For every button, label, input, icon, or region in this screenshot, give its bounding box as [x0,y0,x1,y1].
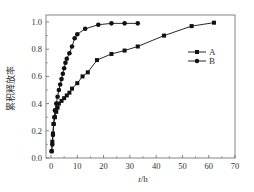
marker-circle [109,21,114,26]
x-tick-label: 20 [99,161,108,171]
marker-circle [135,21,140,26]
marker-circle [70,44,75,49]
marker-square [123,49,127,53]
x-tick-label: 70 [231,161,240,171]
series-line-B [52,23,138,151]
x-axis-ticks: 010203040506070 [49,155,239,171]
y-tick-label: 1.0 [31,17,42,27]
marker-circle [72,36,77,41]
marker-circle [75,32,80,37]
marker-circle [59,77,64,82]
y-tick-label: 0.4 [31,99,42,109]
marker-circle [51,122,56,127]
marker-square [212,21,216,25]
x-axis-label: t/h [138,174,148,184]
x-tick-label: 50 [178,161,187,171]
marker-square [86,70,90,74]
marker-square [70,87,74,91]
legend-marker-circle [195,59,199,63]
marker-circle [64,56,69,61]
marker-circle [52,115,57,120]
marker-circle [54,101,59,106]
y-tick-label: 0.6 [31,71,42,81]
legend: AB [188,47,216,66]
series-line-A [52,23,214,152]
x-tick-label: 10 [73,161,82,171]
marker-circle [50,142,55,147]
marker-circle [67,51,72,56]
x-tick-label: 0 [49,161,53,171]
marker-square [136,44,140,48]
marker-circle [62,66,67,71]
y-axis-label: 累积释放率 [5,66,16,111]
y-tick-label: 0.8 [31,44,42,54]
marker-circle [53,108,58,113]
data-series [49,21,216,154]
marker-circle [57,88,62,93]
marker-circle [63,61,68,66]
marker-circle [96,22,101,27]
y-tick-label: 0.0 [31,153,42,163]
marker-square [162,34,166,38]
release-chart: 0.00.20.40.60.81.0 010203040506070 AB 累积… [0,0,254,192]
marker-square [81,74,85,78]
marker-square [95,58,99,62]
x-tick-label: 30 [126,161,135,171]
y-tick-label: 0.2 [31,126,42,136]
marker-circle [122,21,127,26]
legend-label-B: B [209,56,215,66]
marker-circle [49,149,54,154]
marker-square [75,81,79,85]
marker-circle [83,27,88,32]
legend-marker-square [195,50,199,54]
marker-square [190,24,194,28]
marker-circle [61,71,66,76]
marker-circle [51,133,56,138]
marker-circle [55,95,60,100]
marker-circle [58,82,63,87]
x-tick-label: 60 [204,161,213,171]
marker-square [109,52,113,56]
marker-square [67,91,71,95]
x-tick-label: 40 [152,161,161,171]
